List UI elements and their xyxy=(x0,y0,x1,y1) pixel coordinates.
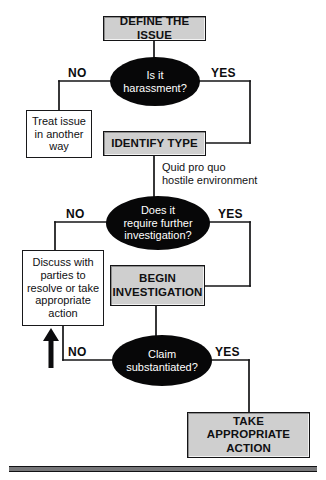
node-does-it-require-further-investigation[interactable]: Does it require further investigation? xyxy=(106,196,210,250)
edge-label-investigation-no: NO xyxy=(66,207,85,221)
node-does-it-require-further-investigation-label: Does it require further investigation? xyxy=(117,204,198,242)
node-take-appropriate-action[interactable]: TAKE APPROPRIATE ACTION xyxy=(187,412,310,458)
node-discuss-with-parties-label: Discuss with parties to resolve or take … xyxy=(24,256,102,321)
node-define-the-issue-label: DEFINE THE ISSUE xyxy=(104,15,205,42)
node-discuss-with-parties[interactable]: Discuss with parties to resolve or take … xyxy=(22,250,104,326)
edge-label-harassment-no: NO xyxy=(68,66,87,80)
node-claim-substantiated-label: Claim substantiated? xyxy=(120,348,204,374)
bottom-divider-rule xyxy=(9,466,317,472)
node-take-appropriate-action-label: TAKE APPROPRIATE ACTION xyxy=(188,415,309,456)
node-identify-type-label: IDENTIFY TYPE xyxy=(108,137,201,151)
edge-label-substantiated-no: NO xyxy=(68,345,87,359)
node-is-it-harassment[interactable]: Is it harassment? xyxy=(110,57,200,106)
node-begin-investigation-label: BEGIN INVESTIGATION xyxy=(110,272,206,299)
node-identify-type[interactable]: IDENTIFY TYPE xyxy=(103,131,206,156)
edge-label-investigation-yes: YES xyxy=(218,207,243,221)
node-treat-issue-another-way[interactable]: Treat issue in another way xyxy=(26,110,92,158)
node-treat-issue-another-way-label: Treat issue in another way xyxy=(29,115,89,154)
feedback-up-arrow-icon xyxy=(42,328,60,368)
flowchart-diagram: DEFINE THE ISSUE Is it harassment? Treat… xyxy=(0,0,326,480)
edge-label-substantiated-yes: YES xyxy=(215,345,240,359)
node-claim-substantiated[interactable]: Claim substantiated? xyxy=(112,335,212,386)
annotation-harassment-types: Quid pro quo hostile environment xyxy=(162,161,257,187)
node-define-the-issue[interactable]: DEFINE THE ISSUE xyxy=(103,16,206,41)
node-begin-investigation[interactable]: BEGIN INVESTIGATION xyxy=(110,265,205,306)
edge-label-harassment-yes: YES xyxy=(211,66,236,80)
node-is-it-harassment-label: Is it harassment? xyxy=(117,69,193,95)
